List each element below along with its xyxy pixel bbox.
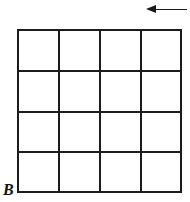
- left-arrow-annotation: [144, 2, 188, 18]
- grid-cell: [141, 111, 182, 152]
- grid-cell: [141, 152, 182, 193]
- arrow-shaft: [154, 9, 187, 10]
- figure-label: B: [3, 181, 14, 199]
- grid-cell: [17, 70, 58, 111]
- grid-line-vertical: [99, 29, 101, 193]
- grid-line-vertical: [58, 29, 60, 193]
- grid-cell: [17, 152, 58, 193]
- grid-cell: [58, 152, 99, 193]
- grid-cell: [100, 29, 141, 70]
- grid-cell: [141, 70, 182, 111]
- grid-line-vertical: [180, 29, 182, 193]
- grid-cell: [141, 29, 182, 70]
- grid-cell: [100, 70, 141, 111]
- grid-cell: [58, 29, 99, 70]
- grid-cell: [17, 29, 58, 70]
- grid-diagram: [17, 29, 182, 193]
- grid-line-vertical: [17, 29, 19, 193]
- grid-cell: [17, 111, 58, 152]
- grid-cell: [58, 70, 99, 111]
- grid-cell: [58, 111, 99, 152]
- grid-line-vertical: [140, 29, 142, 193]
- grid-cell: [100, 111, 141, 152]
- grid-cell: [100, 152, 141, 193]
- figure-panel: B: [0, 0, 190, 202]
